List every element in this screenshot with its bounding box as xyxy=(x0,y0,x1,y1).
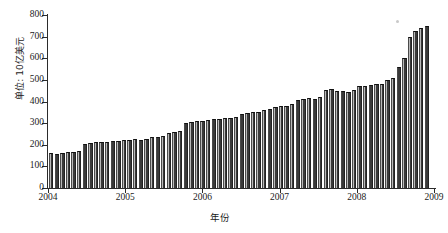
bar xyxy=(206,120,210,188)
bar xyxy=(296,100,300,188)
bar xyxy=(167,133,171,188)
bar xyxy=(111,141,115,188)
x-tick-label: 2006 xyxy=(182,192,222,202)
y-tick-label: 600 xyxy=(4,53,44,63)
bar xyxy=(161,136,165,188)
artifact-speck xyxy=(396,20,399,23)
bar xyxy=(240,114,244,188)
bar xyxy=(133,139,137,188)
bar xyxy=(60,153,64,188)
bar xyxy=(217,119,221,188)
bar xyxy=(189,122,193,188)
bar xyxy=(268,109,272,188)
bar xyxy=(105,142,109,188)
bar xyxy=(374,84,378,188)
bar xyxy=(346,92,350,188)
bar xyxy=(144,139,148,188)
bar xyxy=(408,37,412,188)
bar xyxy=(341,91,345,188)
x-tick-label: 2007 xyxy=(260,192,300,202)
bar xyxy=(122,140,126,188)
bar xyxy=(313,99,317,188)
bar xyxy=(55,154,59,188)
bar xyxy=(66,152,70,188)
bar xyxy=(413,31,417,188)
bar xyxy=(284,106,288,188)
y-axis-title: 单位: 10亿美元 xyxy=(13,14,26,124)
bar xyxy=(419,28,423,188)
bar xyxy=(228,118,232,188)
x-tick-label: 2004 xyxy=(28,192,68,202)
bar xyxy=(49,153,53,188)
bar xyxy=(318,97,322,188)
bar xyxy=(335,91,339,188)
bar xyxy=(212,119,216,188)
y-tick-label: 200 xyxy=(4,140,44,150)
bar xyxy=(391,78,395,188)
bar xyxy=(172,132,176,188)
bar xyxy=(402,58,406,188)
bar xyxy=(273,107,277,188)
y-tick-label: 400 xyxy=(4,97,44,107)
bar xyxy=(184,123,188,188)
bar xyxy=(99,142,103,188)
y-tick-label: 800 xyxy=(4,10,44,20)
bar xyxy=(290,104,294,188)
x-tick-label: 2008 xyxy=(337,192,377,202)
bar xyxy=(425,26,429,188)
y-tick-label: 100 xyxy=(4,161,44,171)
bar xyxy=(262,110,266,188)
bar xyxy=(139,140,143,188)
bar xyxy=(352,90,356,188)
bar xyxy=(324,90,328,188)
bar xyxy=(307,98,311,188)
bar xyxy=(116,141,120,188)
x-tick-label: 2005 xyxy=(105,192,145,202)
bar xyxy=(94,142,98,188)
x-axis-title: 年份 xyxy=(0,210,440,224)
bar xyxy=(369,85,373,188)
bar xyxy=(88,143,92,188)
bar xyxy=(256,112,260,188)
x-axis-line xyxy=(47,188,436,189)
bar xyxy=(83,144,87,188)
y-tick-label: 500 xyxy=(4,75,44,85)
bar xyxy=(77,151,81,188)
plot-area xyxy=(48,15,436,188)
bar xyxy=(385,80,389,188)
x-tick-label: 2009 xyxy=(414,192,448,202)
bar xyxy=(380,84,384,188)
bar xyxy=(156,137,160,188)
bar xyxy=(223,118,227,188)
bar xyxy=(200,121,204,188)
bar xyxy=(245,113,249,188)
y-tick-label: 700 xyxy=(4,32,44,42)
bar xyxy=(71,152,75,188)
y-tick-label: 300 xyxy=(4,118,44,128)
bar xyxy=(301,99,305,188)
bar xyxy=(357,86,361,188)
bar xyxy=(195,121,199,188)
bar xyxy=(150,137,154,188)
bar xyxy=(251,112,255,188)
bar xyxy=(127,140,131,188)
bar xyxy=(397,67,401,188)
bar xyxy=(234,117,238,188)
bar xyxy=(329,89,333,188)
bar xyxy=(363,86,367,188)
bar xyxy=(279,106,283,188)
bar xyxy=(178,131,182,188)
